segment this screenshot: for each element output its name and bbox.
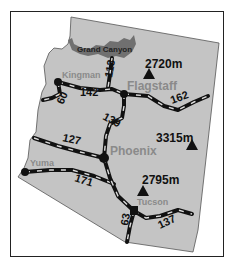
peak-label-2795: 2795m bbox=[142, 173, 179, 187]
peak-label-2720: 2720m bbox=[145, 57, 182, 71]
road-label-63: 63 bbox=[118, 212, 132, 226]
road-label-142: 142 bbox=[80, 86, 98, 98]
grand-canyon-label: Grand Canyon bbox=[77, 45, 132, 54]
phoenix-marker bbox=[99, 153, 109, 163]
city-label-yuma: Yuma bbox=[30, 158, 55, 168]
city-label-tucson: Tucson bbox=[137, 197, 168, 207]
arizona-map: Grand Canyon Kingman Flagstaff Phoenix Y… bbox=[0, 0, 233, 264]
tucson-marker bbox=[130, 206, 138, 215]
city-label-flagstaff: Flagstaff bbox=[127, 79, 178, 93]
city-label-kingman: Kingman bbox=[62, 70, 101, 80]
city-label-phoenix: Phoenix bbox=[110, 144, 157, 158]
peak-label-3315: 3315m bbox=[156, 131, 193, 145]
kingman-marker bbox=[54, 78, 62, 86]
yuma-marker bbox=[21, 168, 29, 176]
